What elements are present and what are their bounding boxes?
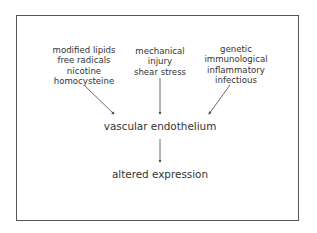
arrow-biological-to-target — [209, 85, 230, 114]
arrow-chemical-to-target — [85, 86, 114, 114]
arrows-layer — [0, 0, 317, 233]
